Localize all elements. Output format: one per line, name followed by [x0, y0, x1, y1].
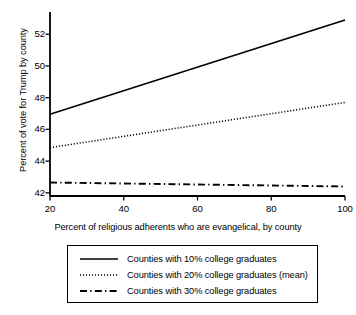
x-tick-label: 80: [251, 204, 291, 214]
x-tick-label: 40: [104, 204, 144, 214]
legend-item-label: Counties with 30% college graduates: [127, 285, 276, 297]
chart-legend: Counties with 10% college graduates Coun…: [67, 245, 318, 303]
chart-figure: Percent of vote for Trump by county 52 5…: [0, 0, 356, 315]
x-tick-label: 100: [325, 204, 356, 214]
x-tick-label: 20: [30, 204, 70, 214]
legend-item: Counties with 10% college graduates: [68, 251, 276, 267]
legend-line-sample-dotted: [79, 268, 119, 282]
x-axis-title: Percent of religious adherents who are e…: [0, 222, 356, 233]
legend-item-label: Counties with 10% college graduates: [127, 253, 276, 265]
legend-item: Counties with 30% college graduates: [68, 283, 276, 299]
x-tick-label: 60: [178, 204, 218, 214]
legend-item: Counties with 20% college graduates (mea…: [68, 267, 308, 283]
legend-line-sample-dashdot: [79, 284, 119, 298]
legend-line-sample-solid: [79, 252, 119, 266]
legend-item-label: Counties with 20% college graduates (mea…: [127, 269, 308, 281]
